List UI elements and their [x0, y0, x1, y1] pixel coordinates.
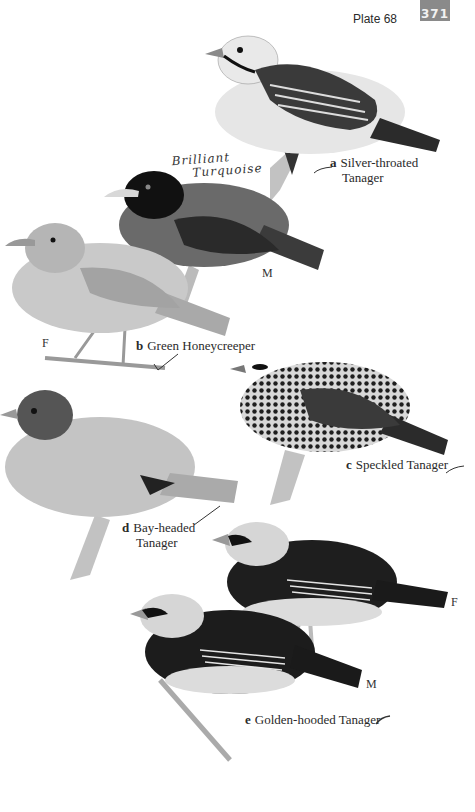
species-letter: b	[136, 338, 143, 353]
checkmark-annotation	[445, 465, 465, 475]
species-caption-d: dBay-headed Tanager	[122, 520, 195, 550]
plate-label: Plate 68	[353, 12, 397, 26]
sex-label-female: F	[451, 595, 458, 610]
speckled-tanager-illustration	[230, 345, 450, 505]
sex-label-male: M	[366, 677, 377, 692]
species-letter: e	[245, 712, 251, 727]
checkmark-annotation	[375, 715, 391, 725]
page-number-badge: 371	[420, 0, 450, 21]
species-caption-e: eGolden-hooded Tanager	[245, 712, 380, 727]
golden-hooded-tanager-male-illustration	[130, 590, 370, 765]
species-letter: d	[122, 520, 129, 535]
sex-label-male: M	[262, 266, 273, 281]
bay-headed-tanager-illustration	[0, 395, 240, 585]
sex-label-female: F	[42, 336, 49, 351]
species-caption-c: cSpeckled Tanager	[346, 457, 448, 472]
species-caption-a: aSilver-throated Tanager	[330, 155, 418, 185]
species-letter: c	[346, 457, 352, 472]
checkmark-annotation	[152, 352, 180, 372]
